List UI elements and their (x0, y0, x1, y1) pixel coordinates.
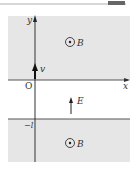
x-axis-label: x (123, 81, 128, 91)
velocity-label: v (40, 64, 45, 74)
minus-l-label: −l (24, 121, 34, 130)
origin-label: O (25, 81, 32, 91)
electric-field-arrow-icon (69, 97, 73, 103)
b-field-label-lower: B (76, 139, 84, 149)
field-diagram: y x O v E B B −l (0, 0, 138, 175)
upper-magnetic-region (8, 16, 130, 80)
b-field-label-upper: B (76, 38, 84, 48)
y-axis-label: y (26, 15, 33, 25)
top-rule-block (108, 1, 125, 5)
electric-field-label: E (76, 96, 84, 106)
